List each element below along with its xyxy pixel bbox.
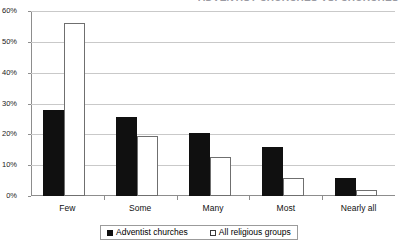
- bar: [210, 157, 231, 196]
- y-axis-tick-label: 40%: [0, 69, 17, 77]
- x-axis-tick-label: Nearly all: [322, 203, 395, 213]
- bar-group: [335, 11, 377, 196]
- y-axis-tick-label: 60%: [0, 7, 17, 15]
- y-axis-tick-label: 50%: [0, 38, 17, 46]
- bar-group: [43, 11, 85, 196]
- y-axis-tick: [28, 134, 31, 135]
- bar-group: [189, 11, 231, 196]
- x-axis-tick-label: Most: [249, 203, 322, 213]
- filled-square-icon: [107, 230, 113, 236]
- y-axis-tick: [28, 11, 31, 12]
- y-axis-tick-label: 0%: [0, 192, 17, 200]
- y-axis-tick: [28, 104, 31, 105]
- bar-group: [116, 11, 158, 196]
- bar: [283, 178, 304, 197]
- bar: [137, 136, 158, 196]
- y-axis-tick-label: 20%: [0, 130, 17, 138]
- y-axis-tick: [28, 73, 31, 74]
- y-axis-tick: [28, 196, 31, 197]
- x-axis-tick-label: Some: [104, 203, 177, 213]
- bar: [43, 110, 64, 196]
- x-axis-tick: [249, 196, 250, 200]
- legend-entry: Adventist churches: [107, 228, 188, 237]
- bar: [189, 133, 210, 196]
- x-axis-tick-label: Few: [31, 203, 104, 213]
- bar: [262, 147, 283, 196]
- y-axis-tick-label: 30%: [0, 100, 17, 108]
- bar: [335, 178, 356, 197]
- legend-label: Adventist churches: [116, 228, 188, 237]
- y-axis-tick: [28, 165, 31, 166]
- x-axis-tick: [104, 196, 105, 200]
- bar: [356, 190, 377, 196]
- chart-title-cutoff: ADVENTIST CHURCHES VS. CHURCHES: [198, 0, 404, 2]
- bar: [64, 23, 85, 196]
- x-axis-tick: [177, 196, 178, 200]
- legend-entry: All religious groups: [210, 228, 291, 237]
- bar-group: [262, 11, 304, 196]
- x-axis-tick-label: Many: [177, 203, 250, 213]
- legend-label: All religious groups: [219, 228, 291, 237]
- y-axis-tick-label: 10%: [0, 161, 17, 169]
- chart-legend: Adventist churchesAll religious groups: [100, 225, 298, 240]
- x-axis-tick: [322, 196, 323, 200]
- bar-chart: ADVENTIST CHURCHES VS. CHURCHES 0%10%20%…: [0, 0, 404, 244]
- y-axis-tick: [28, 42, 31, 43]
- bar: [116, 117, 137, 196]
- plot-area: 0%10%20%30%40%50%60%: [31, 11, 395, 196]
- open-square-icon: [210, 230, 216, 236]
